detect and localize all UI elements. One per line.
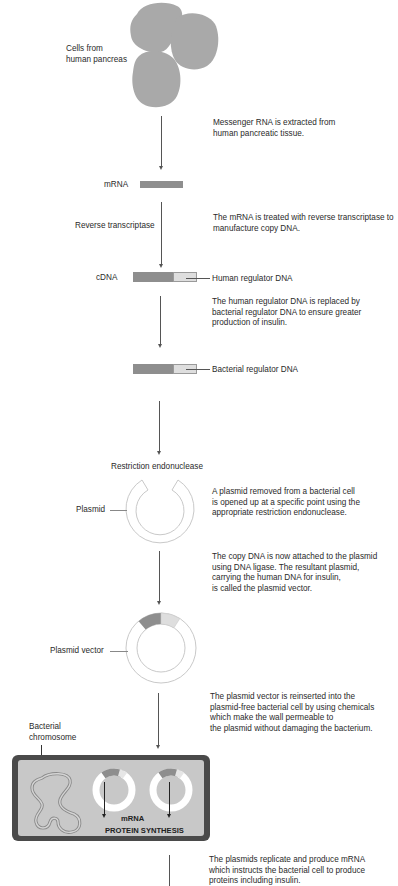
arrow-to-replication <box>169 855 170 886</box>
plasmid-in-cell-2 <box>148 767 194 813</box>
step-description-6: The plasmid vector is reinserted into th… <box>210 692 374 734</box>
arrow-cdna-to-modified <box>160 296 161 346</box>
arrowhead-icon <box>159 166 163 170</box>
step-description-7: The plasmids replicate and produce mRNA … <box>209 855 365 886</box>
arrowhead-icon <box>157 451 161 455</box>
arrowhead-icon <box>156 745 160 749</box>
step-description-3: The human regulator DNA is replaced by b… <box>212 297 361 329</box>
human-regulator-pointer <box>186 278 210 279</box>
plasmid-vector-pointer <box>110 651 128 652</box>
mrna-arrow-1 <box>104 782 105 815</box>
bacterial-chromosome-illustration <box>28 770 88 836</box>
cells-label-line1: Cells from <box>66 44 103 55</box>
pancreas-cells-illustration <box>125 0 225 112</box>
bacterial-regulator-label: Bacterial regulator DNA <box>212 365 298 376</box>
bacterial-chromosome-label-line2: chromosome <box>29 733 76 744</box>
reverse-transcriptase-label: Reverse transcriptase <box>75 221 155 232</box>
cell-mrna-label: mRNA <box>121 814 144 823</box>
mrna-arrow-2 <box>169 782 170 815</box>
plasmid-in-cell-1 <box>91 767 137 813</box>
arrow-mrna-to-cdna <box>161 202 162 266</box>
cells-label-line2: human pancreas <box>66 55 127 66</box>
plasmid-label: Plasmid <box>76 505 105 516</box>
plasmid-vector-illustration <box>121 608 201 688</box>
bacterial-chromosome-label-line1: Bacterial <box>29 722 61 733</box>
mrna-label: mRNA <box>104 180 128 191</box>
step-description-4: A plasmid removed from a bacterial cell … <box>212 487 360 519</box>
opened-plasmid-illustration <box>120 478 200 548</box>
arrow-cells-to-mrna <box>161 116 162 168</box>
arrow-to-plasmid-vector <box>159 551 160 603</box>
mrna-strand <box>140 181 183 188</box>
arrowhead-icon <box>167 814 171 818</box>
arrow-to-restriction <box>159 401 160 453</box>
plasmid-vector-label: Plasmid vector <box>50 646 104 657</box>
restriction-endonuclease-label: Restriction endonuclease <box>111 462 203 473</box>
cdna-label: cDNA <box>96 273 117 284</box>
arrowhead-icon <box>157 601 161 605</box>
cdna-strand <box>133 272 197 282</box>
step-description-5: The copy DNA is now attached to the plas… <box>212 552 377 594</box>
step-description-2: The mRNA is treated with reverse transcr… <box>213 213 394 234</box>
plasmid-pointer <box>110 510 127 511</box>
step-description-1: Messenger RNA is extracted from human pa… <box>213 118 335 139</box>
arrow-to-bacterial-cell <box>158 693 159 747</box>
bacterial-regulator-pointer <box>186 369 210 370</box>
arrowhead-icon <box>158 344 162 348</box>
protein-synthesis-label: PROTEIN SYNTHESIS <box>105 826 184 835</box>
human-regulator-label: Human regulator DNA <box>212 274 293 285</box>
arrowhead-icon <box>102 814 106 818</box>
arrowhead-icon <box>159 264 163 268</box>
